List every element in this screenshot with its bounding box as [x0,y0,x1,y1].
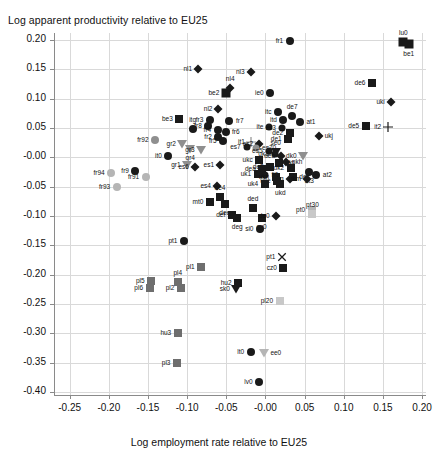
y-tick [50,187,54,188]
point-marker-circle[interactable] [189,125,197,133]
point-label: es6 [178,164,190,171]
point-marker-square[interactable] [308,210,316,218]
point-marker-square[interactable] [175,115,183,123]
point-label: es4 [200,183,212,190]
point-label: be1 [403,50,414,58]
x-tick [109,395,110,399]
point-marker-diamond[interactable] [270,211,281,222]
point-marker-triangle[interactable] [195,144,207,156]
point-label: uk1 [241,171,253,178]
point-marker-square[interactable] [368,79,376,87]
gridline-vertical [344,33,345,395]
point-marker-square[interactable] [279,264,287,272]
y-tick-label: -0.10 [2,209,46,220]
point-label: lt0 [237,349,245,356]
point-marker-circle[interactable] [113,183,121,191]
point-label: pt1 [266,253,277,260]
point-marker-diamond[interactable] [215,160,226,171]
point-label: es7 [230,144,242,151]
point-marker-circle[interactable] [107,169,115,177]
y-tick [50,99,54,100]
point-marker-square[interactable] [233,214,241,222]
point-marker-square[interactable] [197,263,205,271]
gridline-horizontal [54,128,426,129]
y-tick-label: 0.20 [2,33,46,44]
point-marker-square[interactable] [174,329,182,337]
gridline-vertical [109,33,110,395]
point-marker-square[interactable] [362,122,370,130]
x-tick [70,395,71,399]
gridline-horizontal [54,392,426,393]
x-tick [383,395,384,399]
point-marker-diamond[interactable] [213,104,224,115]
point-marker-square[interactable] [261,180,269,188]
point-label: fr5 [209,138,218,145]
x-tick [422,395,423,399]
scatter-chart: Log apparent productivity relative to EU… [0,0,438,460]
x-tick [265,395,266,399]
point-label: pl4 [173,270,182,278]
point-marker-triangle[interactable] [230,283,242,295]
point-marker-diamond[interactable] [385,97,396,108]
gridline-horizontal [54,40,426,41]
point-label: ukj [323,133,333,140]
point-marker-circle[interactable] [274,108,282,116]
point-marker-circle[interactable] [151,136,159,144]
point-label: hu3 [160,330,172,337]
x-tick [226,395,227,399]
point-marker-circle[interactable] [225,117,233,125]
point-marker-square[interactable] [177,284,185,292]
point-marker-circle[interactable] [279,116,287,124]
point-label: sk0 [220,286,232,293]
point-label: at2 [321,172,332,179]
y-tick-label: -0.30 [2,326,46,337]
point-marker-square[interactable] [146,284,154,292]
point-label: pt1 [168,237,179,244]
point-label: ee0 [269,350,281,357]
x-tick-label: -0.25 [48,402,92,413]
point-marker-circle[interactable] [247,348,255,356]
gridline-horizontal [54,99,426,100]
point-marker-circle[interactable] [296,118,304,126]
gridline-horizontal [54,304,426,305]
point-marker-square[interactable] [287,164,295,172]
point-marker-circle[interactable] [222,128,230,136]
y-tick-label: -0.40 [2,385,46,396]
point-marker-diamond[interactable] [301,174,312,185]
x-tick-label: 0.05 [283,402,327,413]
point-marker-square[interactable] [249,204,257,212]
point-label: nl4 [226,76,235,84]
point-marker-square[interactable] [206,198,214,206]
y-tick-label: 0.10 [2,92,46,103]
point-marker-circle[interactable] [142,173,150,181]
point-label: it0 [155,153,163,160]
point-marker-circle[interactable] [266,89,274,97]
point-marker-circle[interactable] [219,137,227,145]
point-marker-circle[interactable] [255,378,263,386]
point-marker-square[interactable] [284,135,292,143]
x-tick-label: -0.10 [165,402,209,413]
point-label: pl6 [134,284,144,291]
point-marker-square[interactable] [222,88,231,97]
point-marker-circle[interactable] [164,152,172,160]
point-marker-diamond[interactable] [193,63,204,74]
point-marker-square[interactable] [404,40,413,49]
point-marker-diamond[interactable] [189,161,200,172]
point-label: fr93 [99,183,112,190]
point-marker-square[interactable] [173,359,181,367]
point-marker-cross[interactable] [276,251,288,263]
point-marker-square[interactable] [221,200,229,208]
point-marker-circle[interactable] [286,37,294,45]
point-marker-square[interactable] [276,180,284,188]
x-tick [305,395,306,399]
point-marker-square[interactable] [276,297,284,305]
point-label: ded [247,195,258,203]
point-marker-circle[interactable] [243,143,250,150]
point-marker-diamond[interactable] [245,66,256,77]
point-marker-circle[interactable] [180,237,188,245]
point-marker-plus[interactable] [382,121,394,133]
point-marker-circle[interactable] [288,112,296,120]
gridline-vertical [148,33,149,395]
point-marker-circle[interactable] [256,225,264,233]
y-tick-label: 0.05 [2,121,46,132]
